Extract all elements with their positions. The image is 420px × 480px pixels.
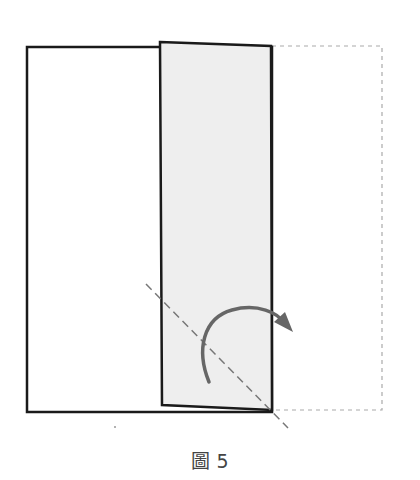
figure-caption: 圖 5 (0, 446, 420, 473)
stray-dot (114, 426, 116, 428)
ghost-flap-outline (272, 46, 382, 410)
fold-diagram (0, 0, 420, 480)
folded-flap (160, 42, 272, 410)
